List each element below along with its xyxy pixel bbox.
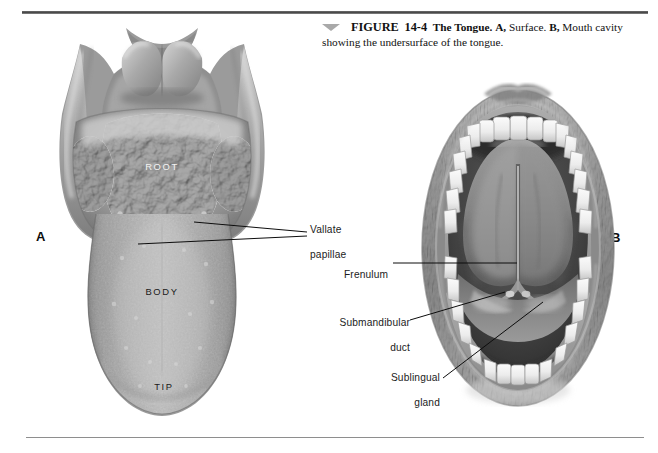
- sublingual-gland-right: [526, 296, 562, 312]
- caption-part-a-text: Surface.: [509, 21, 546, 33]
- caption-part-b-letter: B,: [549, 21, 559, 33]
- caption-title: The Tongue.: [433, 21, 493, 33]
- annotation-sublingual-line2: gland: [362, 397, 440, 409]
- annotation-vallate-line2: papillae: [310, 249, 346, 261]
- annotation-vallate-papillae: Vallate papillae: [310, 212, 346, 274]
- annotation-sublingual-gland: Sublingual gland: [362, 360, 440, 422]
- annotation-submandibular-duct: Submandibular duct: [330, 305, 410, 367]
- footer-divider-rule: [26, 437, 644, 438]
- caption-figure-number: 14-4: [404, 20, 427, 34]
- submandibular-duct-opening-right: [522, 291, 531, 297]
- annotation-frenulum-line1: Frenulum: [344, 269, 388, 281]
- header-divider-rule: [22, 11, 648, 14]
- tongue-dorsal-surface-illustration: ROOT BODY TIP: [18, 18, 308, 418]
- figure-caption: FIGURE 14-4 The Tongue. A, Surface. B, M…: [322, 20, 646, 49]
- region-label-body: BODY: [146, 286, 179, 297]
- mouth-cavity-undersurface-illustration: [418, 78, 618, 410]
- region-label-tip: TIP: [154, 381, 173, 392]
- annotation-frenulum: Frenulum: [344, 257, 388, 294]
- annotation-submandibular-line2: duct: [330, 342, 410, 354]
- annotation-sublingual-line1: Sublingual: [362, 372, 440, 384]
- region-label-root: ROOT: [145, 161, 178, 172]
- caption-figure-word: FIGURE: [351, 20, 399, 34]
- sublingual-gland-left: [474, 296, 510, 312]
- submandibular-duct-opening-left: [506, 291, 515, 297]
- annotation-submandibular-line1: Submandibular: [330, 317, 410, 329]
- caption-part-a-letter: A,: [495, 21, 506, 33]
- triangle-down-icon: [322, 24, 340, 31]
- annotation-vallate-line1: Vallate: [310, 224, 346, 236]
